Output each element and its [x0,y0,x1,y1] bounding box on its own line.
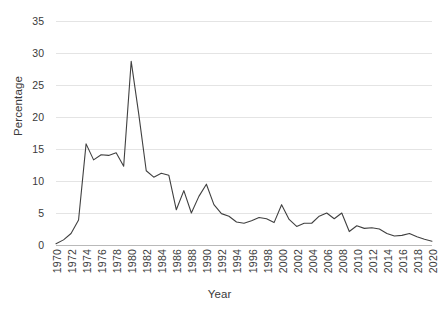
y-tick-label: 30 [32,47,44,59]
x-tick-label: 2014 [382,249,394,273]
y-tick-label: 0 [38,239,44,251]
x-tick-label: 2004 [307,249,319,273]
y-tick-label: 10 [32,175,44,187]
x-tick-label: 2006 [322,249,334,273]
x-tick-label: 1990 [201,249,213,273]
y-tick-label: 5 [38,207,44,219]
y-axis-ticks: 05101520253035 [0,21,50,245]
series-polyline [56,61,432,243]
x-tick-label: 2002 [292,249,304,273]
gridline-0 [56,245,432,246]
x-axis-title: Year [0,288,439,300]
x-tick-label: 1984 [156,249,168,273]
x-tick-label: 2010 [352,249,364,273]
x-tick-label: 1992 [216,249,228,273]
x-tick-label: 1982 [141,249,153,273]
x-tick-label: 1980 [126,249,138,273]
x-tick-label: 2018 [412,249,424,273]
line-chart: Percentage 05101520253035 19701972197419… [0,0,439,311]
y-tick-label: 35 [32,15,44,27]
y-tick-label: 20 [32,111,44,123]
y-tick-label: 25 [32,79,44,91]
x-tick-label: 1998 [262,249,274,273]
x-tick-label: 2020 [427,249,439,273]
plot-area [56,21,432,245]
x-tick-label: 1970 [51,249,63,273]
x-axis-ticks: 1970197219741976197819801982198419861988… [56,249,432,289]
x-tick-label: 2008 [337,249,349,273]
x-tick-label: 1988 [186,249,198,273]
y-tick-label: 15 [32,143,44,155]
x-tick-label: 1994 [231,249,243,273]
x-tick-label: 1976 [96,249,108,273]
x-tick-label: 1986 [171,249,183,273]
x-tick-label: 2016 [397,249,409,273]
x-tick-label: 1974 [81,249,93,273]
x-tick-label: 1996 [247,249,259,273]
x-tick-label: 1978 [111,249,123,273]
x-tick-label: 2012 [367,249,379,273]
x-tick-label: 1972 [66,249,78,273]
x-tick-label: 2000 [277,249,289,273]
series-line [56,21,432,245]
